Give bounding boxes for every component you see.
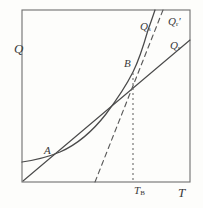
point-label-a: A: [44, 145, 51, 156]
figure-background: [0, 0, 203, 208]
curve-label-qs-base: Q: [140, 20, 148, 32]
y-axis-label: Q: [14, 42, 23, 55]
curve-label-qs-sub: s: [148, 25, 151, 33]
curve-label-qr-sub: r: [178, 44, 180, 52]
point-label-b: B: [124, 58, 131, 69]
x-tick-label-tb: TB: [134, 185, 145, 197]
curve-label-qr-prime-base: Q: [168, 15, 176, 27]
curve-label-qr-prime: Qr′: [168, 16, 181, 28]
curve-label-qs: Qs: [140, 21, 151, 33]
x-tick-label-tb-sub: B: [140, 189, 145, 197]
x-axis-label: T: [178, 186, 185, 199]
figure-canvas: [0, 0, 203, 208]
curve-label-qr: Qr: [170, 40, 180, 52]
curve-label-qr-prime-mark: ′: [178, 15, 180, 27]
curve-label-qr-base: Q: [170, 39, 178, 51]
